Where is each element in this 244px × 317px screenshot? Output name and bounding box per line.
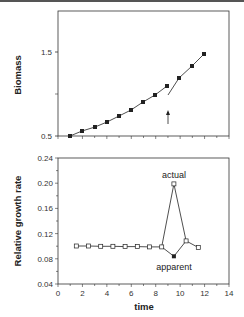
svg-text:12: 12 bbox=[200, 289, 209, 298]
plot-frame bbox=[58, 158, 229, 284]
svg-text:0.04: 0.04 bbox=[37, 280, 53, 289]
label-apparent: apparent bbox=[156, 262, 192, 272]
biomass-line-before bbox=[70, 86, 167, 136]
x-axis-title: time bbox=[134, 301, 154, 312]
y-ticks bbox=[55, 158, 58, 284]
svg-text:0.08: 0.08 bbox=[37, 255, 53, 264]
svg-text:0.16: 0.16 bbox=[37, 204, 53, 213]
y-axis-title: Biomass bbox=[12, 55, 23, 95]
actual-line bbox=[76, 184, 198, 248]
actual-markers bbox=[74, 182, 200, 250]
label-actual: actual bbox=[162, 170, 186, 180]
svg-text:0: 0 bbox=[56, 289, 61, 298]
arrow-up-icon bbox=[166, 110, 170, 124]
apparent-line bbox=[162, 241, 186, 256]
svg-text:0.12: 0.12 bbox=[37, 230, 53, 239]
y-tick-0-5: 0.5 bbox=[41, 132, 53, 141]
y-tick-1-5: 1.5 bbox=[41, 48, 53, 57]
y-tick-labels: 0.24 0.20 0.16 0.12 0.08 0.04 bbox=[37, 154, 53, 289]
biomass-line-after bbox=[168, 54, 204, 95]
x-tick-labels: 0 2 4 6 8 10 12 14 bbox=[56, 289, 234, 298]
biomass-markers bbox=[68, 52, 206, 138]
svg-text:4: 4 bbox=[105, 289, 110, 298]
svg-text:0.24: 0.24 bbox=[37, 154, 53, 163]
plot-frame bbox=[58, 11, 229, 136]
biomass-chart: 1.5 0.5 Biomass bbox=[12, 11, 229, 141]
svg-text:2: 2 bbox=[80, 289, 85, 298]
svg-text:10: 10 bbox=[176, 289, 185, 298]
growth-rate-chart: 0.24 0.20 0.16 0.12 0.08 0.04 0 2 4 6 8 … bbox=[12, 154, 234, 312]
svg-text:14: 14 bbox=[225, 289, 234, 298]
x-ticks bbox=[58, 136, 229, 139]
y-axis-title: Relative growth rate bbox=[12, 176, 23, 267]
svg-text:6: 6 bbox=[129, 289, 134, 298]
x-ticks bbox=[58, 284, 229, 287]
figure: 1.5 0.5 Biomass bbox=[0, 0, 244, 317]
apparent-marker bbox=[172, 254, 176, 258]
svg-text:8: 8 bbox=[153, 289, 158, 298]
svg-text:0.20: 0.20 bbox=[37, 179, 53, 188]
